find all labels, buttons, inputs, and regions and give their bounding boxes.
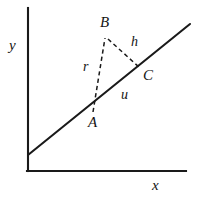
- segment-label-h: h: [131, 35, 138, 49]
- segment-label-u: u: [121, 88, 128, 102]
- segment-r-dashed: [93, 38, 105, 112]
- point-label-C: C: [143, 68, 153, 83]
- figure-container: B C A r h u y x: [0, 0, 198, 197]
- main-diagonal-line: [28, 24, 190, 155]
- segment-label-r: r: [83, 60, 88, 74]
- point-label-A: A: [88, 115, 97, 130]
- x-axis-label: x: [152, 178, 159, 193]
- point-label-B: B: [100, 15, 109, 30]
- y-axis-label: y: [9, 38, 16, 53]
- geometry-figure: [0, 0, 198, 197]
